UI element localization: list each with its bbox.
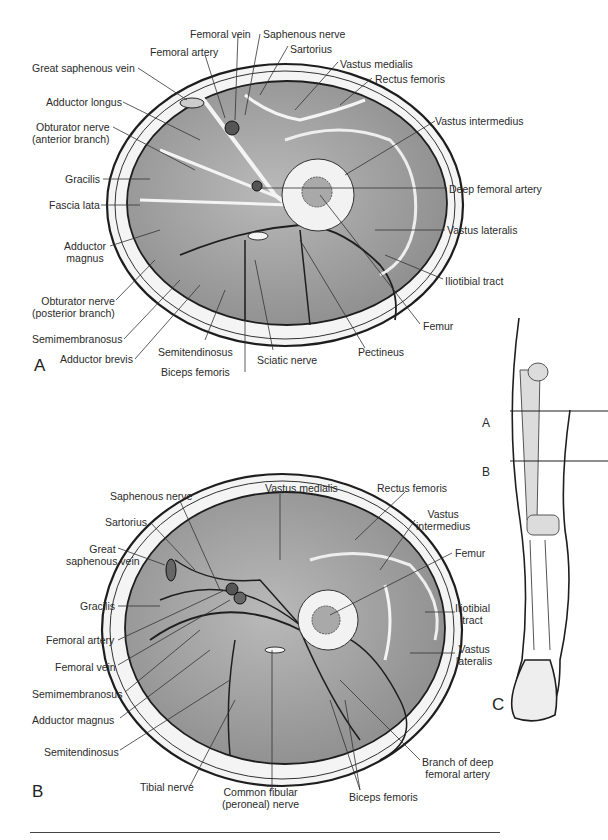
label-b-rectus-femoris: Rectus femoris	[377, 482, 447, 494]
label-b-vastus-lateralis: Vastus lateralis	[456, 643, 492, 667]
label-line-1: Vastus	[416, 508, 470, 520]
label-line-2: (peroneal) nerve	[222, 798, 299, 810]
label-a-vastus-lateralis: Vastus lateralis	[447, 224, 517, 236]
label-b-adductor-magnus: Adductor magnus	[32, 714, 114, 726]
label-line-2: (posterior branch)	[32, 307, 115, 319]
caption-divider	[30, 832, 500, 833]
panel-label-b: B	[32, 782, 43, 802]
panel-label-c: C	[492, 695, 504, 715]
label-b-femur: Femur	[455, 547, 485, 559]
label-line-1: Common fibular	[222, 786, 299, 798]
label-a-sciatic-nerve: Sciatic nerve	[257, 354, 317, 366]
label-line-1: Iliotibial	[455, 602, 490, 614]
label-a-biceps-femoris: Biceps femoris	[161, 366, 230, 378]
label-a-rectus-femoris: Rectus femoris	[375, 73, 445, 85]
label-a-femoral-vein: Femoral vein	[190, 28, 251, 40]
label-a-sartorius: Sartorius	[290, 43, 332, 55]
label-a-gracilis: Gracilis	[65, 173, 100, 185]
label-b-biceps-femoris: Biceps femoris	[349, 791, 418, 803]
label-line-1: Great	[66, 543, 140, 555]
label-a-semimembranosus: Semimembranosus	[32, 333, 122, 345]
label-b-common-fibular-nerve: Common fibular (peroneal) nerve	[222, 786, 299, 810]
label-line-2: saphenous vein	[66, 555, 140, 567]
label-a-fascia-lata: Fascia lata	[49, 199, 100, 211]
label-a-femur: Femur	[423, 320, 453, 332]
label-line-2: magnus	[64, 252, 106, 264]
label-line-2: femoral artery	[422, 768, 493, 780]
label-line-1: Branch of deep	[422, 756, 493, 768]
label-a-pectineus: Pectineus	[358, 346, 404, 358]
leg-marker-a: A	[482, 417, 490, 429]
label-b-semimembranosus: Semimembranosus	[32, 688, 122, 700]
cross-section-b	[102, 474, 462, 786]
label-b-femoral-artery: Femoral artery	[46, 634, 114, 646]
label-a-semitendinosus: Semitendinosus	[158, 346, 233, 358]
label-b-gracilis: Gracilis	[80, 600, 115, 612]
cross-section-a	[107, 64, 463, 346]
label-a-deep-femoral-artery: Deep femoral artery	[449, 183, 542, 195]
label-line-2: lateralis	[456, 655, 492, 667]
label-a-iliotibial-tract: Iliotibial tract	[445, 275, 503, 287]
label-line-2: intermedius	[416, 520, 470, 532]
label-line-2: tract	[455, 614, 490, 626]
label-line-1: Obturator nerve	[32, 295, 115, 307]
label-line-1: Vastus	[456, 643, 492, 655]
label-a-adductor-magnus: Adductor magnus	[64, 240, 106, 264]
label-a-adductor-longus: Adductor longus	[46, 96, 122, 108]
label-a-saphenous-nerve: Saphenous nerve	[263, 28, 345, 40]
label-a-adductor-brevis: Adductor brevis	[60, 353, 133, 365]
label-b-semitendinosus: Semitendinosus	[44, 746, 119, 758]
label-b-branch-deep-femoral-artery: Branch of deep femoral artery	[422, 756, 493, 780]
label-line-1: Adductor	[64, 240, 106, 252]
label-b-great-saphenous-vein: Great saphenous vein	[66, 543, 140, 567]
label-a-great-saphenous-vein: Great saphenous vein	[32, 62, 135, 74]
leg-illustration	[510, 318, 608, 721]
label-b-iliotibial-tract: Iliotibial tract	[455, 602, 490, 626]
label-b-vastus-medialis: Vastus medialis	[265, 482, 338, 494]
label-line-1: Obturator nerve	[32, 121, 110, 133]
panel-label-a: A	[34, 356, 45, 376]
label-b-vastus-intermedius: Vastus intermedius	[416, 508, 470, 532]
label-a-vastus-intermedius: Vastus intermedius	[435, 115, 524, 127]
label-b-saphenous-nerve: Saphenous nerve	[110, 490, 192, 502]
label-a-femoral-artery: Femoral artery	[150, 46, 218, 58]
label-line-2: (anterior branch)	[32, 133, 110, 145]
label-a-obturator-nerve-anterior: Obturator nerve (anterior branch)	[32, 121, 110, 145]
label-a-vastus-medialis: Vastus medialis	[340, 58, 413, 70]
label-b-sartorius: Sartorius	[105, 516, 147, 528]
leg-marker-b: B	[482, 466, 490, 478]
label-b-femoral-vein: Femoral vein	[55, 661, 116, 673]
label-a-obturator-nerve-posterior: Obturator nerve (posterior branch)	[32, 295, 115, 319]
label-b-tibial-nerve: Tibial nerve	[140, 781, 194, 793]
